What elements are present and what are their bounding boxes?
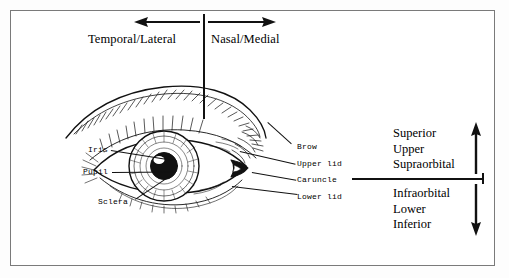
label-temporal-lateral: Temporal/Lateral [88, 33, 176, 46]
term-lower: Lower [393, 202, 450, 218]
term-inferior: Inferior [393, 217, 450, 233]
term-infraorbital: Infraorbital [393, 186, 450, 202]
term-superior: Superior [393, 126, 455, 142]
term-upper: Upper [393, 142, 455, 158]
arrow-right-icon [208, 16, 276, 28]
label-sclera: Sclera [98, 198, 128, 206]
label-iris: Iris [88, 146, 108, 154]
label-caruncle: Caruncle [297, 176, 337, 184]
label-nasal-medial: Nasal/Medial [211, 33, 280, 46]
label-pupil: Pupil [83, 168, 108, 176]
label-brow: Brow [297, 143, 317, 151]
lower-terms-block: Infraorbital Lower Inferior [393, 186, 450, 233]
label-upper-lid: Upper lid [297, 160, 342, 168]
horizontal-midline-tick [482, 173, 484, 184]
horizontal-midline [352, 178, 483, 180]
label-lower-lid: Lower lid [297, 193, 342, 201]
upper-terms-block: Superior Upper Supraorbital [393, 126, 455, 173]
arrow-left-icon [134, 16, 202, 28]
figure-canvas: Temporal/Lateral Nasal/Medial [0, 0, 509, 278]
term-supraorbital: Supraorbital [393, 157, 455, 173]
arrow-down-icon [469, 184, 483, 236]
arrow-up-icon [469, 122, 483, 174]
